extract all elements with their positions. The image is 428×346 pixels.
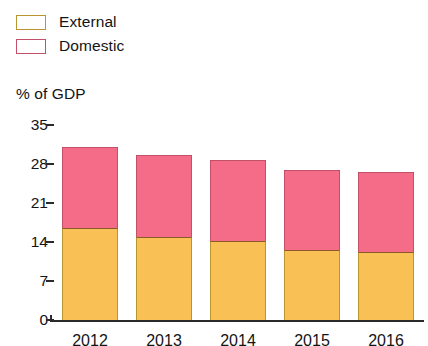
bar-2013[interactable] [136,155,192,320]
bar-segment-domestic[interactable] [358,172,414,252]
y-axis-tick-mark [46,163,54,165]
bar-2012[interactable] [62,147,118,320]
x-axis-line [50,320,424,322]
y-axis-tick-mark [46,319,54,321]
y-axis-tick-label: 35 [8,117,48,133]
y-axis-tick-mark [46,124,54,126]
bar-segment-domestic[interactable] [284,170,340,250]
x-axis-tick-label: 2013 [146,332,182,346]
y-axis-tick-label: 28 [8,156,48,172]
bar-2014[interactable] [210,160,266,320]
bar-2015[interactable] [284,170,340,320]
x-axis-tick-label: 2012 [72,332,108,346]
x-axis-tick-label: 2014 [220,332,256,346]
bar-segment-external[interactable] [136,237,192,320]
bar-segment-external[interactable] [62,228,118,320]
bar-segment-domestic[interactable] [136,155,192,237]
x-axis-tick-label: 2015 [294,332,330,346]
y-axis-tick-mark [46,202,54,204]
y-axis-tick-label: 0 [8,312,48,328]
y-axis-tick-mark [46,280,54,282]
y-axis-tick-label: 14 [8,234,48,250]
bar-segment-external[interactable] [284,250,340,320]
y-axis-tick-label: 7 [8,273,48,289]
bar-segment-domestic[interactable] [62,147,118,228]
bar-segment-external[interactable] [358,252,414,320]
x-axis-tick-label: 2016 [368,332,404,346]
bar-segment-domestic[interactable] [210,160,266,241]
bar-2016[interactable] [358,172,414,320]
chart-plot-area: 071421283520122013201420152016 [0,0,428,346]
y-axis-tick-label: 21 [8,195,48,211]
y-axis-tick-mark [46,241,54,243]
bar-segment-external[interactable] [210,241,266,320]
